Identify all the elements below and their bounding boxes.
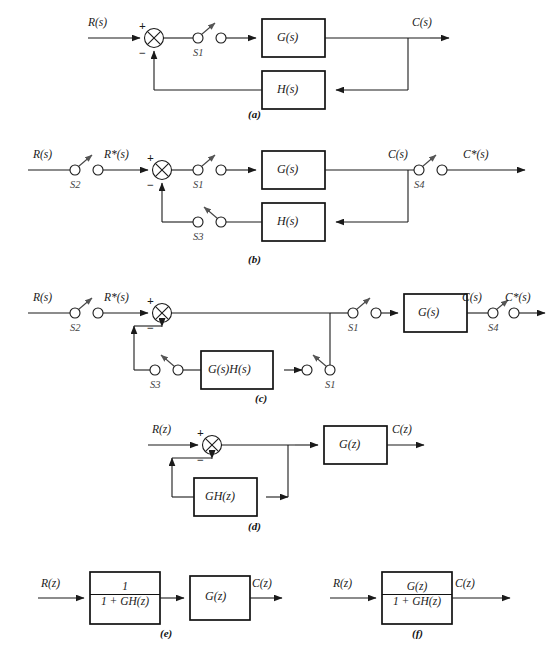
label-e-block-g: G(z)	[205, 590, 226, 602]
label-c-sampled-output: C*(s)	[505, 292, 531, 304]
block-f-fraction: G(z) 1 + GH(z)	[382, 580, 452, 608]
label-a-block-g: G(s)	[277, 31, 298, 43]
label-b-minus: −	[147, 179, 154, 191]
label-c-switch-s3: S3	[150, 380, 161, 391]
block-f-denominator: 1 + GH(z)	[382, 594, 452, 609]
label-d-input: R(z)	[152, 424, 171, 436]
label-c-minus: −	[147, 322, 154, 334]
label-c-block-gh: G(s)H(s)	[208, 363, 251, 375]
label-b-switch-s2: S2	[70, 180, 81, 191]
caption-c: (c)	[255, 393, 267, 404]
label-c-plus: +	[147, 295, 154, 307]
block-f-numerator: G(z)	[382, 580, 452, 594]
figure-canvas: R(s) + − S1 G(s) H(s) C(s) (a) R(s) S2 R…	[0, 0, 549, 648]
label-c-switch-s4: S4	[488, 323, 499, 334]
label-b-sampled-output: C*(s)	[463, 149, 489, 161]
label-d-plus: +	[197, 427, 204, 439]
label-a-switch-s1: S1	[193, 48, 204, 59]
label-c-input: R(s)	[33, 292, 52, 304]
label-a-plus: +	[139, 20, 146, 32]
label-b-plus: +	[147, 152, 154, 164]
label-c-sampled-input: R*(s)	[104, 292, 129, 304]
diagram-d-wires	[148, 426, 424, 516]
block-e-fraction: 1 1 + GH(z)	[90, 580, 160, 608]
label-f-input: R(z)	[333, 578, 352, 590]
label-b-switch-s1: S1	[193, 180, 204, 191]
block-e-numerator: 1	[90, 580, 160, 594]
diagram-e-wires	[38, 572, 282, 624]
label-c-output: C(s)	[462, 292, 482, 304]
caption-e: (e)	[160, 628, 172, 639]
diagram-c-wires	[28, 294, 545, 389]
label-e-input: R(z)	[41, 578, 60, 590]
label-a-block-h: H(s)	[277, 83, 298, 95]
block-e-denominator: 1 + GH(z)	[90, 594, 160, 609]
label-b-block-h: H(s)	[277, 215, 298, 227]
label-b-output: C(s)	[388, 149, 408, 161]
label-c-block-g: G(s)	[418, 306, 439, 318]
caption-a: (a)	[248, 109, 261, 120]
label-d-block-g: G(z)	[339, 438, 360, 450]
label-e-output: C(z)	[252, 578, 272, 590]
label-f-output: C(z)	[455, 578, 475, 590]
label-b-block-g: G(s)	[277, 163, 298, 175]
caption-f: (f)	[412, 628, 423, 639]
label-a-output: C(s)	[412, 17, 432, 29]
label-b-input: R(s)	[33, 149, 52, 161]
label-d-minus: −	[197, 454, 204, 466]
label-b-switch-s3: S3	[193, 232, 204, 243]
label-c-switch-s2: S2	[70, 323, 81, 334]
caption-d: (d)	[248, 521, 261, 532]
label-a-input: R(s)	[88, 17, 107, 29]
label-a-minus: −	[139, 47, 146, 59]
label-b-switch-s4: S4	[414, 180, 425, 191]
caption-b: (b)	[248, 254, 261, 265]
label-b-sampled-input: R*(s)	[104, 149, 129, 161]
label-c-switch-s1-forward: S1	[348, 323, 359, 334]
diagram-vector-layer	[0, 0, 549, 648]
label-c-switch-s1-feedback: S1	[325, 380, 336, 391]
label-d-block-gh: GH(z)	[205, 490, 235, 502]
label-d-output: C(z)	[392, 424, 412, 436]
